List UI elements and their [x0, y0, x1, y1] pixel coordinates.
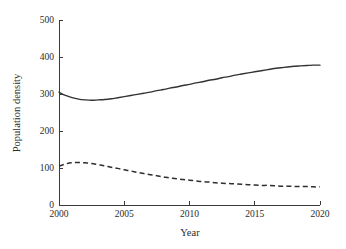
y-tick-label: 300	[40, 89, 55, 99]
y-axis-ticks: 0100200300400500	[40, 15, 63, 210]
y-tick-label: 400	[40, 52, 55, 62]
series-line-solid	[59, 65, 320, 100]
y-tick-label: 200	[40, 126, 55, 136]
x-axis-title: Year	[180, 227, 200, 238]
x-axis-ticks: 20002005201020152020	[50, 201, 330, 219]
x-tick-label: 2005	[115, 209, 134, 219]
x-tick-label: 2015	[245, 209, 264, 219]
chart-canvas: 0100200300400500 20002005201020152020 Ye…	[0, 0, 346, 249]
x-tick-label: 2020	[311, 209, 330, 219]
y-axis-title: Population density	[11, 73, 22, 152]
chart-figure: 0100200300400500 20002005201020152020 Ye…	[0, 0, 346, 249]
x-tick-label: 2010	[180, 209, 199, 219]
y-tick-label: 100	[40, 163, 55, 173]
y-tick-label: 500	[40, 15, 55, 25]
x-tick-label: 2000	[50, 209, 69, 219]
series-line-dashed	[59, 162, 320, 186]
